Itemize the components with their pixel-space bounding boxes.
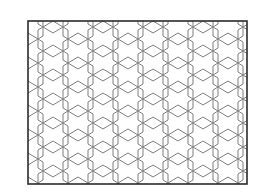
pattern-svg [0, 0, 256, 195]
pattern-canvas [0, 0, 256, 195]
